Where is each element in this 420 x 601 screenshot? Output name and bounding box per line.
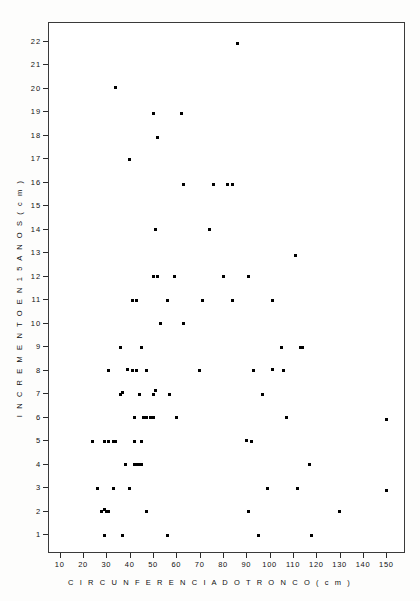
data-point [247, 510, 250, 513]
y-tick-mark [43, 158, 48, 159]
data-point [271, 368, 274, 371]
data-point [103, 440, 106, 443]
data-point [222, 275, 225, 278]
y-tick-label: 13 [31, 248, 41, 257]
y-tick-mark [43, 252, 48, 253]
data-point [285, 416, 288, 419]
data-point [152, 112, 155, 115]
x-tick-label: 50 [148, 560, 158, 569]
data-point [103, 534, 106, 537]
data-point [208, 228, 211, 231]
x-tick-label: 30 [101, 560, 111, 569]
data-point [135, 369, 138, 372]
scatter-plot-figure: 12345678910111213141516171819202122 1020… [0, 0, 420, 601]
data-point [296, 487, 299, 490]
data-point [126, 368, 129, 371]
y-tick-mark [43, 323, 48, 324]
x-tick-label: 60 [171, 560, 181, 569]
y-tick-mark [43, 487, 48, 488]
y-tick-mark [43, 229, 48, 230]
x-tick-label: 20 [78, 560, 88, 569]
x-tick-label: 90 [241, 560, 251, 569]
y-tick-mark [43, 464, 48, 465]
x-tick-mark [153, 553, 154, 558]
data-point [128, 158, 131, 161]
data-point [201, 299, 204, 302]
data-point [180, 112, 183, 115]
data-point [156, 136, 159, 139]
y-tick-mark [43, 511, 48, 512]
data-point [131, 369, 134, 372]
data-point [114, 440, 117, 443]
y-tick-label: 6 [36, 412, 41, 421]
data-point [266, 487, 269, 490]
x-tick-label: 120 [309, 560, 324, 569]
data-point [175, 416, 178, 419]
data-point [107, 440, 110, 443]
data-point [198, 369, 201, 372]
x-tick-label: 40 [125, 560, 135, 569]
y-tick-label: 22 [31, 36, 41, 45]
data-point [128, 487, 131, 490]
data-point [245, 439, 248, 442]
data-point [152, 275, 155, 278]
y-tick-mark [43, 135, 48, 136]
data-point [310, 534, 313, 537]
data-point [231, 183, 234, 186]
data-point [168, 393, 171, 396]
x-tick-label: 130 [332, 560, 347, 569]
y-tick-mark [43, 111, 48, 112]
data-point [231, 299, 234, 302]
y-tick-label: 1 [36, 530, 41, 539]
data-point [247, 275, 250, 278]
x-tick-label: 150 [379, 560, 394, 569]
data-point [138, 393, 141, 396]
x-tick-mark [60, 553, 61, 558]
x-tick-mark [246, 553, 247, 558]
data-point [145, 510, 148, 513]
x-tick-mark [176, 553, 177, 558]
data-point [145, 416, 148, 419]
data-point [133, 416, 136, 419]
y-axis-title: I N C R E M E N T O E N 1 5 A N O S ( c … [11, 183, 27, 413]
x-tick-label: 80 [218, 560, 228, 569]
data-point [107, 510, 110, 513]
data-point [166, 299, 169, 302]
data-point [166, 534, 169, 537]
x-tick-mark [83, 553, 84, 558]
y-tick-mark [43, 346, 48, 347]
data-point [182, 322, 185, 325]
y-tick-label: 3 [36, 483, 41, 492]
y-tick-mark [43, 534, 48, 535]
x-tick-label: 110 [286, 560, 300, 569]
y-tick-mark [43, 182, 48, 183]
data-point [308, 463, 311, 466]
y-tick-label: 9 [36, 342, 41, 351]
y-tick-label: 5 [36, 436, 41, 445]
x-tick-mark [200, 553, 201, 558]
x-tick-label: 70 [195, 560, 205, 569]
data-point [96, 487, 99, 490]
y-axis-title-text: I N C R E M E N T O E N 1 5 A N O S ( c … [15, 179, 24, 417]
x-tick-mark [106, 553, 107, 558]
data-point [250, 440, 253, 443]
data-point [159, 322, 162, 325]
data-point [152, 393, 155, 396]
x-tick-mark [223, 553, 224, 558]
y-tick-mark [43, 417, 48, 418]
y-tick-mark [43, 440, 48, 441]
data-point [124, 463, 127, 466]
x-tick-mark [316, 553, 317, 558]
y-tick-mark [43, 276, 48, 277]
y-tick-label: 18 [31, 130, 41, 139]
y-tick-label: 12 [31, 271, 41, 280]
y-tick-mark [43, 205, 48, 206]
x-tick-mark [386, 553, 387, 558]
data-point [152, 416, 155, 419]
x-tick-mark [363, 553, 364, 558]
x-tick-mark [130, 553, 131, 558]
x-tick-mark [270, 553, 271, 558]
y-tick-label: 7 [36, 389, 41, 398]
data-point [154, 228, 157, 231]
x-axis-title: C I R C U N F E R E N C I A D O T R O N … [0, 578, 420, 587]
